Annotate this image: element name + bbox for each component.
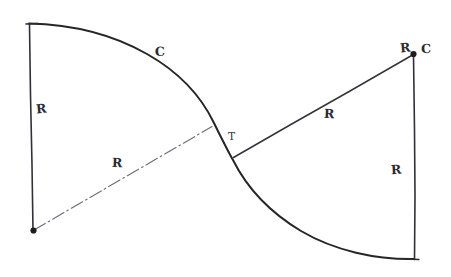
left-vertical-radius-line xyxy=(30,25,34,232)
label-lower-left-radius-diagonal: R xyxy=(112,155,123,171)
tangent-to-right-center-radius-line xyxy=(234,55,413,158)
top-left-origin-tick xyxy=(26,24,38,25)
label-left-arc-designation: C xyxy=(154,44,165,60)
label-tangent-point: T xyxy=(228,130,236,142)
label-right-center-radius: R xyxy=(399,39,411,55)
left-arc-curve xyxy=(29,24,224,144)
label-left-vertical-radius: R xyxy=(35,100,47,116)
label-right-arc-designation: C xyxy=(421,41,432,56)
bottom-right-terminus-tick xyxy=(404,259,419,260)
label-right-vertical-radius: R xyxy=(390,162,402,178)
right-arc-curve xyxy=(224,143,414,259)
diagram-canvas xyxy=(0,0,451,277)
left-center-point-dot xyxy=(30,227,36,233)
reverse-curve-diagram: R C R T R R C R xyxy=(0,0,451,277)
label-upper-right-radius-diagonal: R xyxy=(324,106,335,122)
right-vertical-radius-line xyxy=(414,55,416,260)
left-center-to-tangent-centerline xyxy=(34,127,212,231)
